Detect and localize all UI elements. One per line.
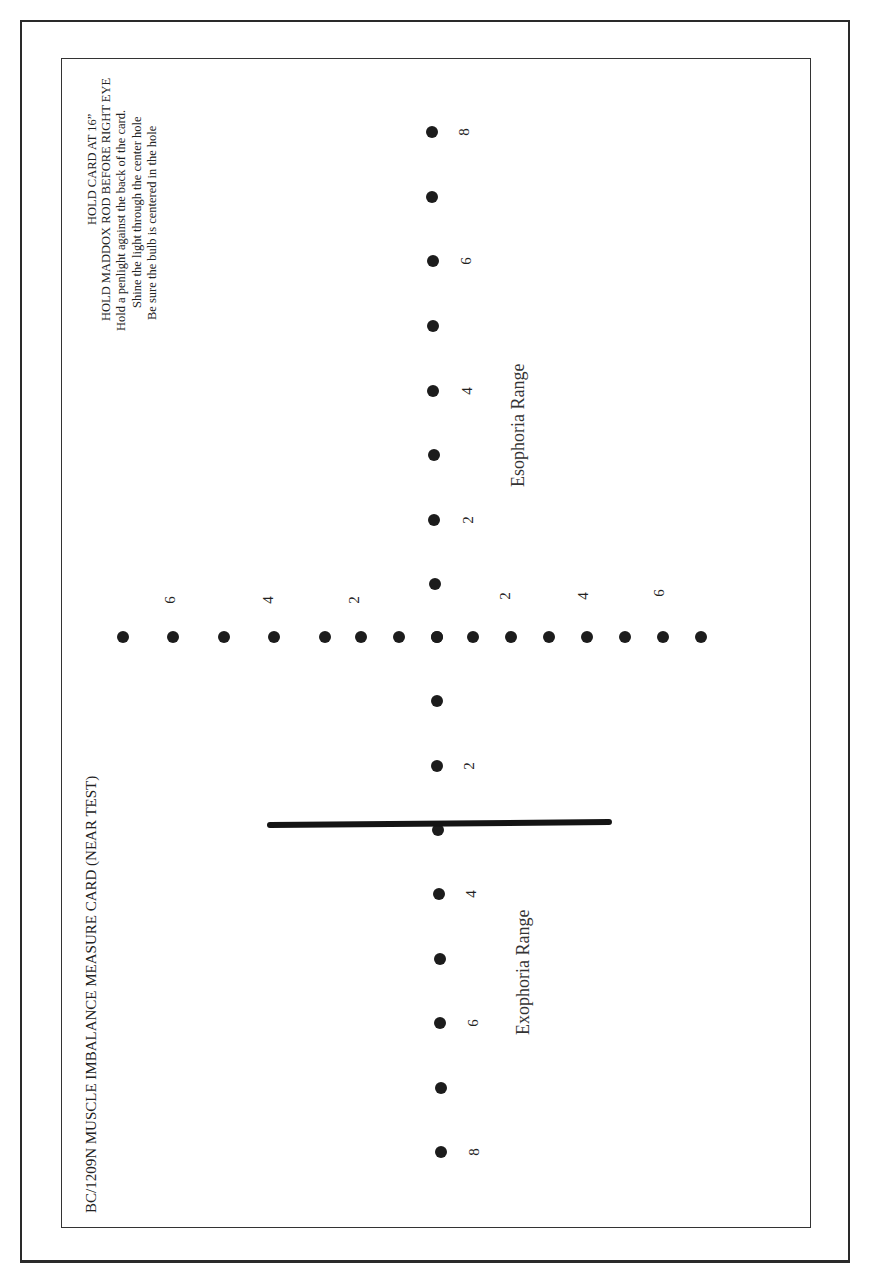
scale-number: 2 xyxy=(498,592,513,600)
dot-marker xyxy=(435,1082,447,1094)
dot-marker xyxy=(428,514,440,526)
dot-marker xyxy=(355,631,367,643)
scale-number: 6 xyxy=(466,1019,481,1027)
dot-marker xyxy=(431,631,443,643)
scale-number: 4 xyxy=(464,890,479,898)
dot-marker xyxy=(431,695,443,707)
dot-marker xyxy=(543,631,555,643)
esophoria-range-label: Esophoria Range xyxy=(509,364,527,487)
scale-number: 6 xyxy=(163,596,178,604)
dot-marker xyxy=(619,631,631,643)
scale-number: 4 xyxy=(261,596,276,604)
dot-marker xyxy=(434,953,446,965)
instruction-line: Hold a penlight against the back of the … xyxy=(115,110,128,331)
scale-number: 4 xyxy=(460,387,475,395)
dot-marker xyxy=(426,126,438,138)
dot-marker xyxy=(467,631,479,643)
dot-marker xyxy=(435,1146,447,1158)
scale-number: 8 xyxy=(457,128,472,136)
dot-marker xyxy=(167,631,179,643)
scale-number: 2 xyxy=(461,516,476,524)
dot-marker xyxy=(429,578,441,590)
scale-number: 8 xyxy=(467,1148,482,1156)
instruction-line: Shine the light through the center hole xyxy=(131,116,144,308)
dot-marker xyxy=(393,631,405,643)
dot-marker xyxy=(319,631,331,643)
dot-marker xyxy=(581,631,593,643)
dot-marker xyxy=(695,631,707,643)
dot-marker xyxy=(657,631,669,643)
exophoria-range-label: Exophoria Range xyxy=(514,910,532,1035)
dot-marker xyxy=(427,385,439,397)
scale-number: 2 xyxy=(462,762,477,770)
dot-marker xyxy=(428,449,440,461)
card-title: BC/1209N MUSCLE IMBALANCE MEASURE CARD (… xyxy=(84,776,99,1213)
instruction-line: HOLD MADDOX ROD BEFORE RIGHT EYE xyxy=(100,78,113,321)
instruction-line: Be sure the bulb is centered in the hole xyxy=(146,126,159,320)
dot-marker xyxy=(433,888,445,900)
card-border xyxy=(61,58,811,1228)
dot-marker xyxy=(218,631,230,643)
dot-marker xyxy=(434,1017,446,1029)
dot-marker xyxy=(268,631,280,643)
instruction-line: HOLD CARD AT 16” xyxy=(86,114,99,225)
cropped-footer-text xyxy=(0,1274,872,1279)
scale-number: 4 xyxy=(576,592,591,600)
dot-marker xyxy=(427,320,439,332)
scale-number: 6 xyxy=(652,589,667,597)
dot-marker xyxy=(117,631,129,643)
dot-marker xyxy=(431,760,443,772)
scale-number: 6 xyxy=(459,257,474,265)
scale-number: 2 xyxy=(347,596,362,604)
dot-marker xyxy=(426,191,438,203)
dot-marker xyxy=(505,631,517,643)
dot-marker xyxy=(427,255,439,267)
